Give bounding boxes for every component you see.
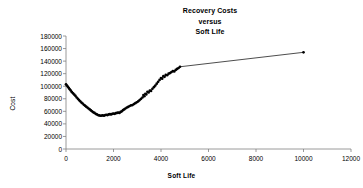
data-point bbox=[161, 77, 164, 80]
chart-container: Recovery Costs versus Soft Life Cost Sof… bbox=[0, 0, 363, 188]
data-point bbox=[179, 65, 182, 68]
series-line bbox=[66, 52, 304, 115]
plot-area bbox=[0, 0, 363, 188]
data-series bbox=[65, 51, 305, 117]
data-point bbox=[145, 93, 148, 96]
axes bbox=[63, 36, 351, 152]
data-point bbox=[302, 51, 305, 54]
